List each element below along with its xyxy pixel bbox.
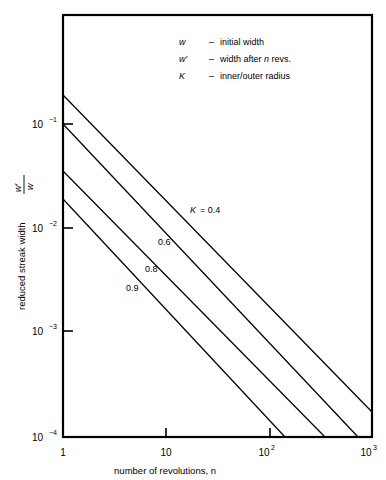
curve-label-k-0-9: 0.9	[126, 283, 139, 293]
y-axis-title: reduced streak width	[16, 222, 27, 310]
x-tick-labels: 1 10 10 2 10 3	[60, 444, 377, 458]
y-tick-label-1e-4-exp: −4	[49, 429, 57, 436]
x-tick-label-1e3-exp: 3	[373, 444, 377, 451]
y-axis-fraction-numerator: w′	[13, 184, 23, 192]
y-tick-label-1e-3-exp: −3	[49, 323, 57, 330]
curve-label-k-0-8: 0.8	[145, 264, 158, 274]
legend-text-1-post: revs.	[269, 54, 291, 64]
y-tick-label-1e-1-exp: −1	[49, 116, 57, 123]
curve-k-0-9	[63, 199, 285, 437]
x-axis-ticks	[166, 428, 270, 437]
x-axis-title: number of revolutions, n	[114, 465, 216, 476]
curve-label-k-0-6: 0.6	[158, 237, 171, 247]
legend-symbol-k: K	[179, 71, 186, 81]
y-tick-label-1e-1-base: 10	[32, 119, 44, 130]
curve-label-k-0-4: K= 0.4	[190, 205, 220, 215]
legend-symbol-w: w	[179, 37, 186, 47]
legend-text-initial-width: initial width	[220, 37, 264, 47]
curve-label-k-0-4-prefix: K	[190, 205, 197, 215]
figure-container: 10 −1 10 −2 10 −3 10 −4 1 10 10 2 10 3 n…	[0, 0, 386, 480]
y-tick-label-1e-2-base: 10	[32, 223, 44, 234]
legend-dash-1: –	[209, 54, 214, 64]
legend-symbol-w-prime: w′	[179, 54, 187, 64]
loglog-chart: 10 −1 10 −2 10 −3 10 −4 1 10 10 2 10 3 n…	[0, 0, 386, 480]
y-tick-label-1e-2-exp: −2	[49, 220, 57, 227]
curve-k-0-6	[63, 124, 358, 437]
legend-dash-0: –	[209, 37, 214, 47]
y-axis-fraction-denominator: w	[25, 183, 35, 190]
y-tick-labels: 10 −1 10 −2 10 −3 10 −4	[32, 116, 57, 443]
x-tick-label-1e2-exp: 2	[271, 444, 275, 451]
legend-text-inner-outer-radius: inner/outer radius	[220, 71, 291, 81]
x-tick-label-1e3-base: 10	[360, 447, 372, 458]
curve-label-k-0-4-rest: = 0.4	[200, 205, 220, 215]
y-axis-fraction: w′ w	[13, 175, 35, 194]
y-tick-label-1e-4-base: 10	[32, 432, 44, 443]
legend: w – initial width w′ – width after n rev…	[179, 37, 291, 81]
legend-dash-2: –	[209, 71, 214, 81]
plot-frame	[63, 15, 372, 437]
y-axis-ticks	[63, 124, 73, 331]
x-tick-label-1e2-base: 10	[258, 447, 270, 458]
data-curves	[63, 95, 372, 437]
legend-text-1-pre: width after	[219, 54, 264, 64]
x-tick-label-10: 10	[160, 447, 172, 458]
x-tick-label-1: 1	[60, 447, 66, 458]
y-tick-label-1e-3-base: 10	[32, 326, 44, 337]
legend-text-width-after-n-revs: width after n revs.	[219, 54, 291, 64]
